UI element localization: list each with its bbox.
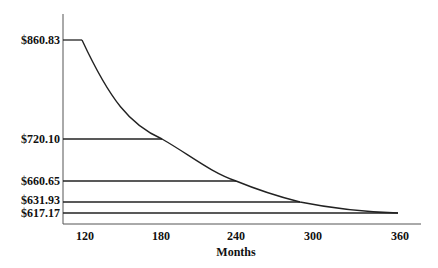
x-axis-title: Months — [216, 245, 256, 259]
y-label-4: $617.17 — [21, 206, 60, 220]
y-label-0: $860.83 — [21, 33, 60, 47]
x-label-3: 300 — [304, 229, 322, 243]
x-label-0: 120 — [76, 229, 94, 243]
payment-chart: $860.83 $720.10 $660.65 $631.93 $617.17 … — [0, 0, 438, 268]
y-label-2: $660.65 — [21, 174, 60, 188]
y-label-3: $631.93 — [21, 193, 60, 207]
x-label-2: 240 — [227, 229, 245, 243]
x-label-4: 360 — [391, 229, 409, 243]
payment-curve — [82, 40, 398, 213]
y-label-1: $720.10 — [21, 132, 60, 146]
x-label-1: 180 — [152, 229, 170, 243]
